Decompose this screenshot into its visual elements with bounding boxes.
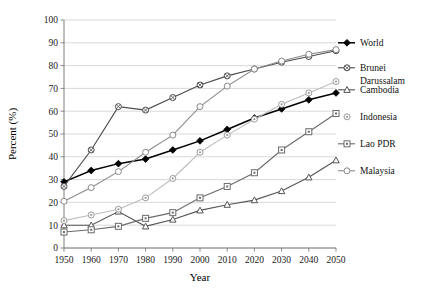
x-tick-label: 2050 — [327, 255, 346, 265]
series-line — [64, 160, 336, 226]
y-axis-title: Percent (%) — [6, 108, 19, 161]
legend-item[interactable]: Indonesia — [344, 112, 398, 122]
y-tick-label: 60 — [49, 107, 59, 117]
x-tick-label: 2040 — [299, 255, 318, 265]
legend-item[interactable]: Malaysia — [338, 166, 396, 176]
legend-marker — [344, 168, 350, 174]
line-chart: 0102030405060708090100195019601970198019… — [0, 0, 448, 296]
x-tick-label: 2000 — [191, 255, 210, 265]
legend-item[interactable]: Cambodia — [338, 85, 400, 95]
x-tick-label: 1950 — [55, 255, 74, 265]
x-tick-label: 2010 — [218, 255, 237, 265]
series-line — [64, 51, 336, 187]
y-tick-label: 50 — [49, 129, 59, 139]
x-axis-title: Year — [190, 271, 211, 283]
series-line — [64, 113, 336, 232]
legend-label: Indonesia — [360, 112, 398, 122]
legend-marker — [344, 39, 351, 46]
x-tick-label: 2020 — [245, 255, 264, 265]
legend-marker — [344, 114, 350, 120]
legend-label: Cambodia — [360, 85, 400, 95]
chart-container: 0102030405060708090100195019601970198019… — [0, 0, 448, 296]
legend-marker — [344, 141, 350, 147]
legend-label: Brunei — [360, 63, 386, 73]
legend-item[interactable]: Brunei — [338, 63, 386, 73]
series-malaysia — [61, 47, 339, 205]
y-tick-label: 90 — [49, 38, 59, 48]
series-line — [64, 50, 336, 202]
legend-label: Lao PDR — [360, 139, 396, 149]
legend-item[interactable]: World — [338, 38, 384, 48]
y-tick-label: 0 — [53, 243, 58, 253]
legend-item[interactable]: Lao PDR — [338, 139, 396, 149]
y-tick-label: 30 — [49, 175, 59, 185]
y-tick-label: 20 — [49, 198, 59, 208]
y-tick-label: 10 — [49, 221, 59, 231]
y-tick-label: 100 — [44, 15, 59, 25]
chart-legend: WorldBruneiDarussalamCambodiaIndonesiaLa… — [338, 38, 405, 176]
x-tick-label: 1970 — [109, 255, 128, 265]
legend-marker — [344, 65, 350, 71]
y-tick-label: 40 — [49, 152, 59, 162]
x-tick-label: 1960 — [82, 255, 101, 265]
series-lao-pdr — [61, 110, 339, 235]
legend-label: Malaysia — [360, 166, 396, 176]
legend-label: World — [360, 38, 384, 48]
y-tick-label: 70 — [49, 84, 59, 94]
y-tick-label: 80 — [49, 61, 59, 71]
x-tick-label: 1990 — [163, 255, 182, 265]
x-tick-label: 2030 — [272, 255, 291, 265]
x-tick-label: 1980 — [136, 255, 155, 265]
series-indonesia — [61, 79, 339, 224]
